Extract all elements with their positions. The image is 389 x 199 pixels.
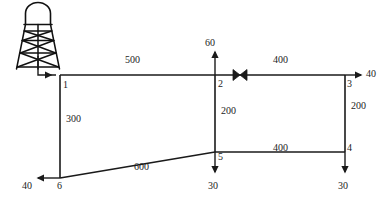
- pipe-label-6-5: 600: [134, 162, 149, 172]
- supply-flow-arrow-icon: [45, 71, 53, 78]
- pipe-label-2-5: 200: [221, 106, 236, 116]
- demand-label-node-5: 30: [208, 181, 218, 191]
- pipe-label-3-4: 200: [351, 101, 366, 111]
- gate-valve-icon: [233, 70, 247, 81]
- node-label-1: 1: [63, 80, 68, 90]
- node-label-4: 4: [347, 143, 352, 153]
- pipe-network-diagram: 500 400 300 200 200 600 400 1 2 3 4 5 6 …: [0, 0, 389, 199]
- pipe-label-1-6: 300: [66, 114, 81, 124]
- demand-arrow-node-4: [341, 152, 348, 174]
- demand-label-node-6: 40: [22, 181, 32, 191]
- pipe-label-1-2: 500: [125, 55, 140, 65]
- demand-label-node-2: 60: [205, 38, 215, 48]
- node-label-2: 2: [218, 79, 223, 89]
- pipe-label-2-3: 400: [273, 55, 288, 65]
- demand-arrow-node-2: [211, 51, 218, 76]
- pipe-label-5-4: 400: [273, 143, 288, 153]
- demand-label-node-3: 40: [366, 69, 376, 79]
- demand-label-node-4: 30: [338, 181, 348, 191]
- node-label-6: 6: [57, 181, 62, 191]
- network-schematic-svg: [0, 0, 389, 199]
- node-label-3: 3: [347, 79, 352, 89]
- node-label-5: 5: [218, 152, 223, 162]
